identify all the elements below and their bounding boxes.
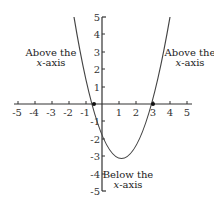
svg-text:x-axis: x-axis — [114, 179, 143, 190]
svg-text:5: 5 — [94, 12, 100, 23]
svg-text:-4: -4 — [90, 169, 100, 180]
svg-text:3: 3 — [150, 107, 156, 118]
svg-text:4: 4 — [94, 29, 100, 40]
svg-text:-1: -1 — [80, 107, 90, 118]
svg-text:-2: -2 — [63, 107, 73, 118]
svg-text:3: 3 — [94, 47, 100, 58]
svg-text:5: 5 — [184, 107, 190, 118]
root-point-right — [151, 102, 155, 106]
svg-text:-3: -3 — [46, 107, 56, 118]
svg-text:1: 1 — [94, 82, 100, 93]
svg-text:1: 1 — [116, 107, 122, 118]
annotation-below: Below the x-axis — [103, 169, 154, 190]
svg-text:x-axis: x-axis — [176, 57, 205, 68]
root-point-left — [92, 102, 96, 106]
svg-text:4: 4 — [167, 107, 173, 118]
svg-text:2: 2 — [133, 107, 139, 118]
parabola-graph: -5 -4 -3 -2 -1 1 2 3 4 5 5 4 3 2 1 -1 -2… — [0, 0, 214, 207]
svg-text:-4: -4 — [29, 107, 39, 118]
svg-text:-5: -5 — [90, 186, 100, 197]
parabola-curve — [74, 17, 170, 159]
annotation-above-left: Above the x-axis — [25, 47, 77, 68]
x-tick-labels: -5 -4 -3 -2 -1 1 2 3 4 5 — [12, 107, 190, 118]
svg-text:-5: -5 — [12, 107, 22, 118]
svg-text:-2: -2 — [90, 134, 100, 145]
svg-text:-3: -3 — [90, 151, 100, 162]
annotation-above-right: Above the x-axis — [164, 47, 214, 68]
svg-text:x-axis: x-axis — [37, 57, 66, 68]
svg-text:2: 2 — [94, 64, 100, 75]
